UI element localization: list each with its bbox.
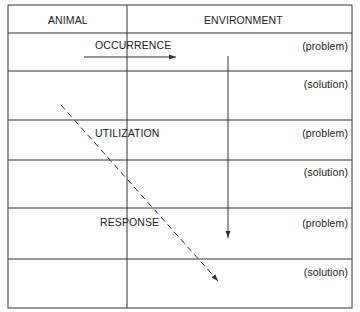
utilization-solution-tag: (solution) xyxy=(304,166,348,178)
table-frame xyxy=(8,5,352,308)
response-problem-tag: (problem) xyxy=(302,217,348,229)
header-animal: ANIMAL xyxy=(48,14,88,26)
occurrence-problem-tag: (problem) xyxy=(302,40,348,52)
header-environment: ENVIRONMENT xyxy=(204,14,283,26)
response-solution-tag: (solution) xyxy=(304,266,348,278)
utilization-problem-tag: (problem) xyxy=(302,127,348,139)
occurrence-solution-tag: (solution) xyxy=(304,78,348,90)
stage-response: RESPONSE xyxy=(100,216,159,228)
stage-occurrence: OCCURRENCE xyxy=(95,39,171,51)
stage-utilization: UTILIZATION xyxy=(95,127,160,139)
